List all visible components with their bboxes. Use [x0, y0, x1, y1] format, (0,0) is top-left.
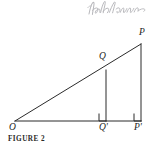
- segment-hypotenuse-O-P: [15, 44, 141, 121]
- vertex-label-O: O: [9, 123, 16, 133]
- right-angle-Qprime-icon: [99, 114, 106, 121]
- geometry-svg: [0, 0, 156, 154]
- figure-2-diagram: O Q P Q' P' FIGURE 2: [0, 0, 156, 154]
- vertex-label-P-prime: P': [134, 123, 142, 133]
- figure-caption: FIGURE 2: [8, 135, 45, 143]
- triangle-lines: [15, 44, 141, 121]
- right-angle-markers: [99, 114, 141, 121]
- vertex-label-Q-prime: Q': [99, 123, 108, 133]
- vertex-label-P: P: [139, 28, 145, 38]
- right-angle-Pprime-icon: [134, 114, 141, 121]
- vertex-label-Q: Q: [99, 52, 106, 62]
